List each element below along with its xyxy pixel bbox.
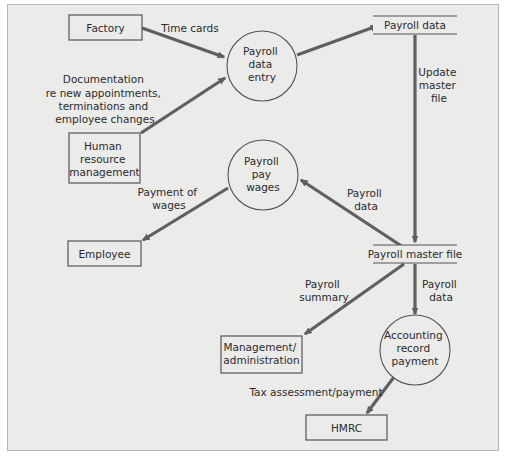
flow-label-payroll-data-to-wages: Payroll data <box>347 187 385 212</box>
store-label: Payroll data <box>384 19 446 31</box>
svg-text:Payroll data entry: Payroll data entry <box>243 45 281 83</box>
flow-label-documentation: Documentation re new appointments, termi… <box>46 73 164 125</box>
process-label: Payroll <box>244 155 279 167</box>
entity-label: HMRC <box>331 422 362 434</box>
entity-label: Human <box>84 140 122 152</box>
process-label: payment <box>392 355 439 367</box>
process-label: Accounting <box>384 329 443 341</box>
svg-text:Factory: Factory <box>86 22 124 34</box>
flow-entry-to-payroll-data <box>297 26 377 55</box>
data-flow-diagram: Factory Human resource management Employ… <box>0 0 507 459</box>
entity-label: management <box>69 166 139 178</box>
flow-label-update-master-file: Update master file <box>418 66 459 104</box>
process-label: pay <box>252 168 271 180</box>
entity-label: Factory <box>86 22 124 34</box>
store-label: Payroll master file <box>368 248 463 260</box>
store-payroll-data[interactable]: Payroll data <box>373 16 457 34</box>
entity-hmrc[interactable]: HMRC <box>306 415 387 440</box>
process-label: entry <box>248 71 276 83</box>
entity-label: Employee <box>78 248 130 260</box>
entity-human-resource-management[interactable]: Human resource management <box>69 133 140 183</box>
svg-text:Payroll data: Payroll data <box>384 19 446 31</box>
entity-employee[interactable]: Employee <box>68 241 141 266</box>
flow-label-payroll-summary: Payroll summary <box>299 278 349 303</box>
flow-label-time-cards: Time cards <box>160 22 219 34</box>
store-payroll-master-file[interactable]: Payroll master file <box>368 245 463 263</box>
flow-label-payment-of-wages: Payment of wages <box>138 186 201 211</box>
process-label: data <box>249 58 273 70</box>
flow-label-tax-assessment: Tax assessment/payment <box>248 386 382 398</box>
process-label: record <box>397 342 431 354</box>
flow-label-payroll-data-to-accounting: Payroll data <box>422 278 460 303</box>
svg-text:HMRC: HMRC <box>331 422 362 434</box>
process-label: wages <box>246 181 280 193</box>
entity-label: Management/ <box>223 341 296 353</box>
process-accounting-record-payment[interactable]: Accounting record payment <box>380 315 450 385</box>
process-payroll-data-entry[interactable]: Payroll data entry <box>227 31 297 101</box>
svg-text:Employee: Employee <box>78 248 130 260</box>
entity-label: administration <box>223 354 299 366</box>
process-payroll-pay-wages[interactable]: Payroll pay wages <box>228 140 298 210</box>
entity-management-administration[interactable]: Management/ administration <box>221 336 302 373</box>
entity-label: resource <box>80 153 125 165</box>
entity-factory[interactable]: Factory <box>69 15 142 40</box>
svg-text:Payroll master file: Payroll master file <box>368 248 463 260</box>
process-label: Payroll <box>243 45 278 57</box>
svg-text:Management/ administrati: Management/ administration <box>223 341 299 366</box>
